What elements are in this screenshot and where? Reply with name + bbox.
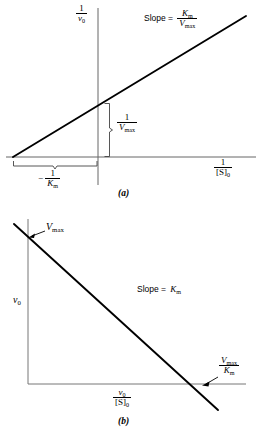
panel-a-x-axis-label-denominator: [S] [216, 167, 227, 177]
panel-a-slope-annotation-text: Slope = [144, 14, 173, 23]
panel-a-y-intercept-annotation: 1 Vmax [117, 113, 137, 132]
panel-a-x-intercept-annotation: − 1 Km [38, 169, 60, 188]
panel-b-x-axis-label-numerator-sub: 0 [123, 392, 126, 398]
panel-a-y-intercept-denominator: V [119, 122, 125, 132]
panel-a-label: (a) [118, 188, 129, 198]
panel-b-data-line [14, 224, 218, 410]
panel-b-x-intercept-annotation: Vmax Km [219, 356, 239, 375]
panel-b-x-intercept-denominator-sub: m [230, 370, 235, 376]
panel-a-y-axis-label: 1 v0 [76, 4, 87, 23]
panel-b-y-intercept-annotation: Vmax [46, 222, 64, 233]
panel-b-x-axis-label: v0 [S]0 [113, 388, 131, 407]
panel-b-y-axis-label: v0 [13, 295, 21, 306]
panel-a-bracket-inv-vmax [105, 104, 113, 157]
panel-b-x-intercept-denominator: K [224, 365, 230, 375]
panel-a-x-axis-label: 1 [S]0 [214, 158, 232, 177]
panel-a-slope-denominator-sub: max [185, 23, 196, 29]
panel-b-slope-annotation-text: Slope = [137, 285, 166, 294]
panel-b-x-intercept-numerator: V [221, 355, 227, 365]
panel-b-slope-symbol-sub: m [176, 289, 181, 295]
panel-a-lineweaver-burk: 1 v0 1 [S]0 Slope = Km Vmax 1 Vmax [0, 0, 262, 212]
panel-a-bracket-neg-inv-km [14, 161, 98, 169]
panel-a-slope-numerator-sub: m [188, 13, 193, 19]
panel-a-y-axis-label-denominator-sub: 0 [82, 18, 85, 24]
panel-a-x-axis-label-denominator-sub: 0 [227, 172, 230, 178]
panel-b-y-axis-label-sub: 0 [17, 299, 20, 306]
panel-b-x-axis-label-denominator-sub: 0 [126, 402, 129, 408]
panel-a-x-intercept-sign: − [38, 174, 43, 183]
panel-b-slope-annotation: Slope = Km [137, 285, 181, 295]
panel-b-eadie-hofstee: v0 v0 [S]0 Vmax Slope = Km Vmax Km (b) [0, 212, 262, 430]
panel-a-y-intercept-denominator-sub: max [125, 127, 136, 133]
panel-b-label: (b) [118, 416, 129, 426]
panel-a-data-line [13, 16, 246, 157]
panel-b-x-intercept-numerator-sub: max [227, 360, 238, 366]
panel-b-y-intercept-arrowhead [29, 234, 36, 239]
panel-a-slope-annotation: Slope = Km Vmax [144, 9, 197, 28]
figure-root: 1 v0 1 [S]0 Slope = Km Vmax 1 Vmax [0, 0, 262, 430]
panel-a-slope-denominator: V [179, 18, 185, 28]
panel-b-y-intercept-sub: max [52, 226, 64, 233]
panel-b-x-axis-label-denominator: [S] [115, 397, 126, 407]
panel-a-x-intercept-denominator-sub: m [53, 183, 58, 189]
panel-b-x-axis-label-numerator: v [119, 387, 123, 397]
